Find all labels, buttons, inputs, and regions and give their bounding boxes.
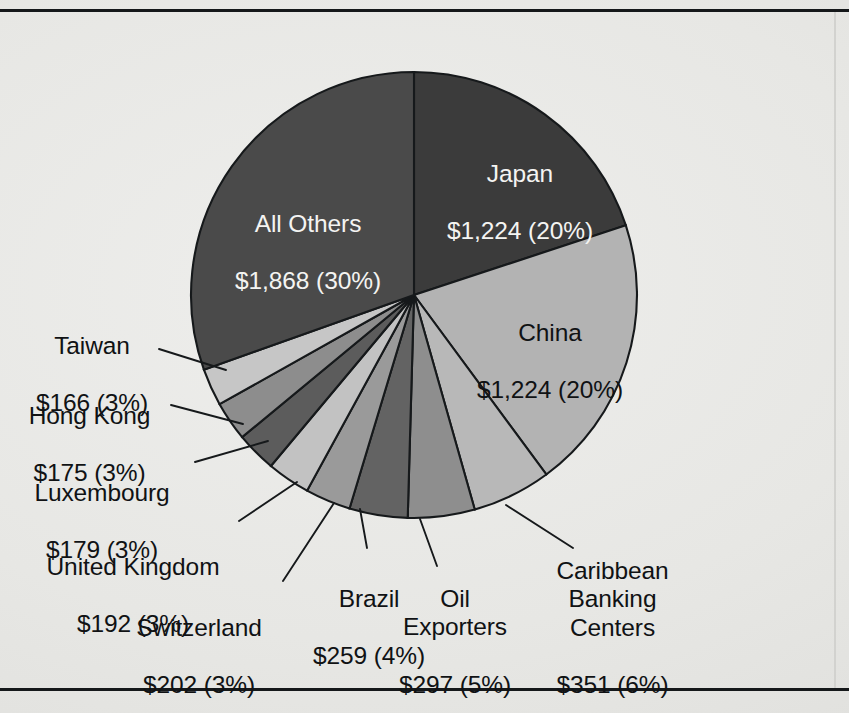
slice-label-hong-kong-name: Hong Kong xyxy=(7,402,172,431)
slice-label-united-kingdom-name: United Kingdom xyxy=(18,553,248,582)
slice-label-china: China $1,224 (20%) xyxy=(455,290,645,433)
slice-label-caribbean: Caribbean Banking Centers $351 (6%) xyxy=(525,528,700,713)
figure-canvas: Japan $1,224 (20%) China $1,224 (20%) Al… xyxy=(0,0,849,713)
slice-label-all-others: All Others $1,868 (30%) xyxy=(208,181,408,324)
slice-label-luxembourg-name: Luxembourg xyxy=(7,479,197,508)
slice-label-oil-exporters-name: Oil Exporters xyxy=(375,585,535,642)
slice-label-japan: Japan $1,224 (20%) xyxy=(425,131,615,274)
slice-label-oil-exporters: Oil Exporters $297 (5%) xyxy=(375,556,535,713)
slice-label-oil-exporters-amount: $297 (5%) xyxy=(375,671,535,700)
slice-label-switzerland-name: Switzerland xyxy=(104,614,294,643)
slice-label-taiwan-name: Taiwan xyxy=(22,332,162,361)
leader-line-united-kingdom xyxy=(239,482,297,521)
slice-label-japan-name: Japan xyxy=(425,160,615,189)
leader-line-brazil xyxy=(360,509,367,548)
slice-label-caribbean-amount: $351 (6%) xyxy=(525,671,700,700)
slice-label-caribbean-name: Caribbean Banking Centers xyxy=(525,557,700,643)
slice-label-china-name: China xyxy=(455,319,645,348)
slice-label-china-amount: $1,224 (20%) xyxy=(455,376,645,405)
slice-label-switzerland: Switzerland $202 (3%) xyxy=(104,585,294,713)
slice-label-all-others-name: All Others xyxy=(208,210,408,239)
slice-label-japan-amount: $1,224 (20%) xyxy=(425,217,615,246)
slice-label-all-others-amount: $1,868 (30%) xyxy=(208,267,408,296)
slice-label-switzerland-amount: $202 (3%) xyxy=(104,671,294,700)
